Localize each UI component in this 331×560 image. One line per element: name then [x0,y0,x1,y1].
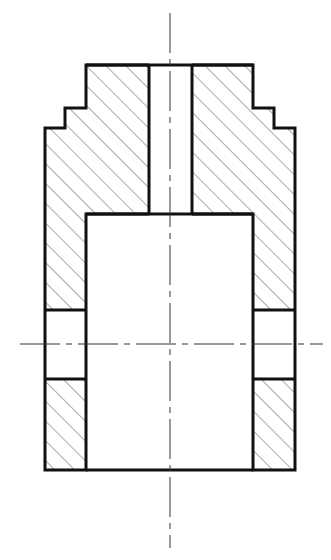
right-lower-section [253,379,295,470]
sectional-drawing [0,0,331,560]
right-upper-section [192,65,295,310]
left-lower-section [45,379,86,470]
left-upper-section [45,65,149,310]
